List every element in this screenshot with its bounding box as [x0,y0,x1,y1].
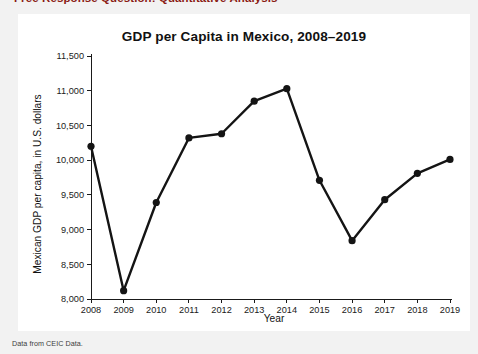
x-axis-tick-label: 2016 [342,305,362,315]
y-axis-title: Mexican GDP per capita, in U.S. dollars [32,94,43,273]
page-root: Free Response Question: Quantitative Ana… [0,0,478,354]
y-axis-tick-label: 11,500 [57,51,84,61]
data-point-marker [283,85,290,92]
data-point-marker [414,170,421,177]
chart-figure-card: GDP per Capita in Mexico, 2008–2019 8,00… [18,14,470,331]
x-axis-tick-label: 2015 [309,305,329,315]
data-point-marker [251,98,258,105]
y-axis-tick-label: 11,000 [57,86,84,96]
x-axis-tick-label: 2013 [244,305,264,315]
data-point-marker [316,177,323,184]
data-point-marker [87,143,94,150]
x-axis-tick-label: 2019 [440,305,460,315]
x-axis-tick-label: 2011 [179,305,199,315]
x-axis-tick-label: 2012 [211,305,231,315]
series-group [87,85,453,294]
data-point-marker [120,287,127,294]
x-axis-title: Year [264,313,285,324]
x-axis-tick-label: 2018 [407,305,427,315]
series-line [91,89,450,291]
x-axis-tick-label: 2009 [113,305,133,315]
line-chart-plot: 8,0008,5009,0009,50010,00010,50011,00011… [18,14,470,331]
x-axis-tick-label: 2008 [81,305,101,315]
document-header-strip: Free Response Question: Quantitative Ana… [0,0,478,10]
x-axis-tick-label: 2010 [146,305,166,315]
source-caption: Data from CEIC Data. [12,339,83,348]
x-axis-tick-label: 2017 [375,305,395,315]
y-axis-tick-label: 9,000 [61,225,84,235]
data-point-marker [381,196,388,203]
y-axis-tick-label: 10,500 [56,121,84,131]
data-point-marker [348,237,355,244]
y-axis-tick-label: 8,000 [61,294,84,304]
data-point-marker [153,199,160,206]
data-point-marker [218,130,225,137]
document-header-title: Free Response Question: Quantitative Ana… [14,0,278,4]
data-point-marker [185,134,192,141]
y-axis-group: 8,0008,5009,0009,50010,00010,50011,00011… [56,51,91,304]
y-axis-tick-label: 9,500 [61,190,84,200]
y-axis-tick-label: 10,000 [56,155,84,165]
y-axis-tick-label: 8,500 [61,260,84,270]
data-point-marker [446,156,453,163]
